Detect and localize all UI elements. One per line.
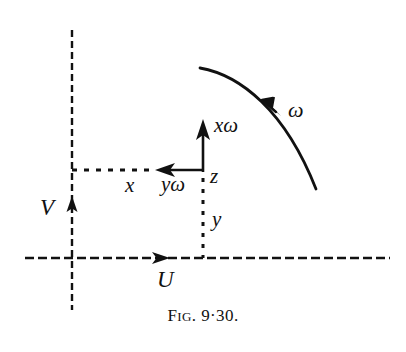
figure-drawing <box>0 0 406 352</box>
z-point-label: z <box>210 166 218 187</box>
caption-prefix: F <box>167 306 177 325</box>
figure-container: V U x yω z y xω ω FIG. 9·30. <box>0 0 406 352</box>
u-axis-label: U <box>157 268 174 291</box>
x-omega-vector-label: xω <box>214 115 238 136</box>
y-vector-label: y <box>212 209 221 230</box>
u-axis-arrowhead <box>152 252 170 264</box>
figure-caption: FIG. 9·30. <box>0 306 406 326</box>
y-omega-vector-label: yω <box>161 174 185 195</box>
v-axis-label: V <box>40 196 54 219</box>
x-vector-label: x <box>125 175 134 196</box>
caption-smallcaps: IG <box>177 309 192 324</box>
caption-rest: . 9·30. <box>192 306 239 325</box>
omega-arc-label: ω <box>288 99 304 121</box>
